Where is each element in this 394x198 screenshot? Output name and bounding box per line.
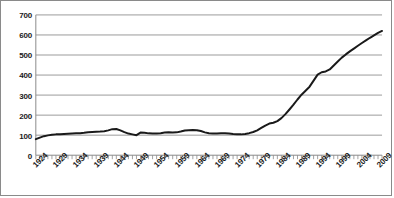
y-axis-tick-label: 300 [19, 91, 32, 100]
y-axis-tick-label: 200 [19, 111, 32, 120]
x-axis-labels: 1924192919341939194419491954195919641969… [1, 161, 391, 198]
y-axis-tick-label: 0 [28, 152, 32, 161]
y-axis-tick-label: 100 [19, 131, 32, 140]
y-axis-tick-label: 400 [19, 71, 32, 80]
gridlines-group [36, 15, 382, 135]
y-axis-tick-label: 600 [19, 31, 32, 40]
chart-figure: 0100200300400500600700 19241929193419391… [0, 0, 392, 196]
y-axis-tick-label: 700 [19, 11, 32, 20]
y-axis-tick-label: 500 [19, 51, 32, 60]
data-series-line [36, 31, 382, 139]
